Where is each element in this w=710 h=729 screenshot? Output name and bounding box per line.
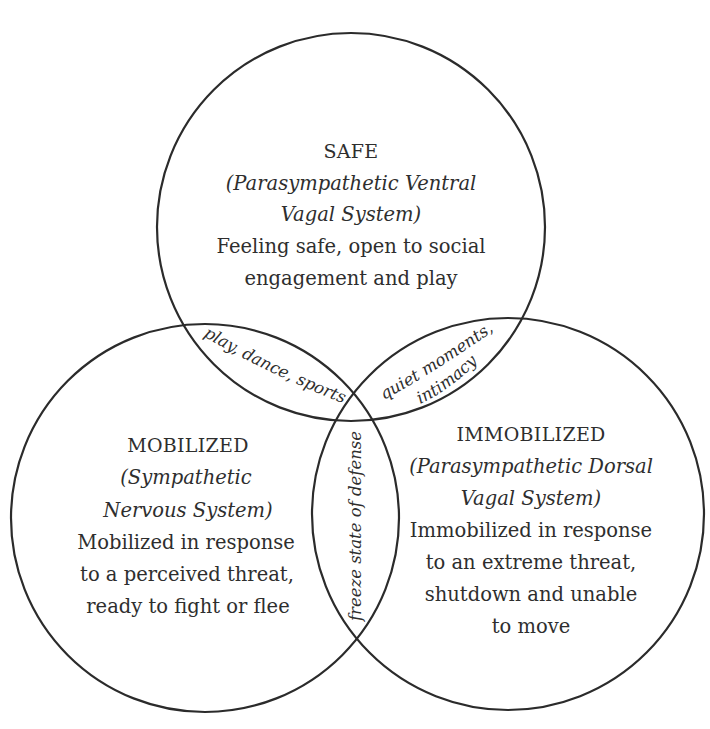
immobilized-description-line-3: shutdown and unable <box>425 583 638 606</box>
safe-description-line-1: Feeling safe, open to social <box>216 235 485 258</box>
safe-description-line-2: engagement and play <box>244 267 457 290</box>
mobilized-title: MOBILIZED <box>127 434 249 456</box>
venn-diagram: SAFE (Parasympathetic Ventral Vagal Syst… <box>0 0 710 729</box>
safe-title: SAFE <box>324 140 379 162</box>
mobilized-description-line-3: ready to fight or flee <box>86 595 289 618</box>
immobilized-description-line-2: to an extreme threat, <box>426 551 637 574</box>
safe-subtitle-line-1: (Parasympathetic Ventral <box>226 172 477 195</box>
immobilized-circle <box>312 318 704 710</box>
overlap-safe-mobilized: play, dance, sports <box>201 323 349 407</box>
overlap-safe-mobilized-text: play, dance, sports <box>201 323 349 407</box>
mobilized-description-line-1: Mobilized in response <box>77 531 295 554</box>
immobilized-subtitle-line-1: (Parasympathetic Dorsal <box>409 455 653 478</box>
safe-circle <box>157 33 545 421</box>
immobilized-description-line-1: Immobilized in response <box>410 519 652 542</box>
safe-subtitle-line-2: Vagal System) <box>281 203 421 226</box>
mobilized-subtitle-line-2: Nervous System) <box>102 499 272 522</box>
safe-label-group: SAFE (Parasympathetic Ventral Vagal Syst… <box>216 140 485 290</box>
immobilized-description-line-4: to move <box>492 615 571 638</box>
mobilized-description-line-2: to a perceived threat, <box>80 563 294 586</box>
overlap-mobilized-immobilized: freeze state of defense <box>346 431 365 623</box>
immobilized-title: IMMOBILIZED <box>456 423 605 445</box>
immobilized-label-group: IMMOBILIZED (Parasympathetic Dorsal Vaga… <box>409 423 653 638</box>
immobilized-subtitle-line-2: Vagal System) <box>461 487 601 510</box>
mobilized-label-group: MOBILIZED (Sympathetic Nervous System) M… <box>77 434 295 618</box>
mobilized-subtitle-line-1: (Sympathetic <box>120 466 252 489</box>
